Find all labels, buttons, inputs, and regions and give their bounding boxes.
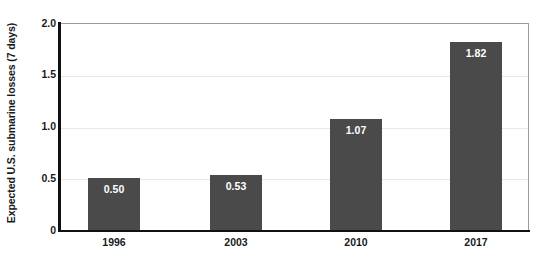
y-tick-label-0: 0	[24, 225, 56, 236]
bar-value-2010: 1.07	[330, 124, 382, 136]
y-axis-line	[58, 22, 61, 232]
y-tick-label-0-5: 0.5	[24, 173, 56, 184]
bar-value-1996: 0.50	[88, 183, 140, 195]
y-tick-label-1-5: 1.5	[24, 69, 56, 80]
bar-2003: 0.53	[210, 175, 262, 230]
bar-2017: 1.82	[450, 42, 502, 230]
y-axis-tick-labels: 2.0 1.5 1.0 0.5 0	[20, 0, 56, 260]
bar-value-2003: 0.53	[210, 180, 262, 192]
x-axis-line	[58, 230, 530, 233]
bar-2010: 1.07	[330, 119, 382, 230]
plot-area: 0.50 0.53 1.07 1.82	[60, 23, 529, 230]
y-axis-title: Expected U.S. submarine losses (7 days)	[2, 7, 20, 239]
x-tick-label-2003: 2003	[196, 236, 276, 249]
y-tick-label-2-0: 2.0	[24, 18, 56, 29]
x-axis-tick-labels: 1996 2003 2010 2017	[60, 236, 529, 252]
x-tick-label-1996: 1996	[74, 236, 154, 249]
bar-1996: 0.50	[88, 178, 140, 230]
x-tick-label-2010: 2010	[316, 236, 396, 249]
x-tick-label-2017: 2017	[436, 236, 516, 249]
bar-chart: Expected U.S. submarine losses (7 days) …	[0, 0, 548, 260]
bar-value-2017: 1.82	[450, 47, 502, 59]
y-tick-label-1-0: 1.0	[24, 121, 56, 132]
